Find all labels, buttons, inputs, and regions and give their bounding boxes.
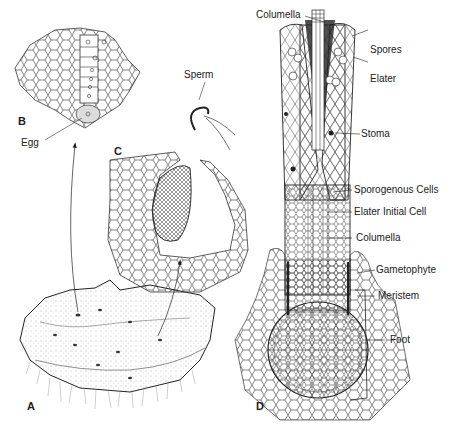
- label-meristem: Meristem: [378, 291, 419, 301]
- label-gametophyte: Gametophyte: [376, 265, 436, 275]
- label-columella: Columella: [356, 233, 400, 243]
- label-sperm: Sperm: [184, 70, 213, 80]
- label-elater-initial-cell: Elater Initial Cell: [354, 207, 426, 217]
- label-stoma: Stoma: [361, 129, 390, 139]
- panel-label-a: A: [27, 401, 35, 412]
- hornwort-figure: B C A D Egg Sperm Columella Spores Elate…: [0, 0, 461, 428]
- label-columella-top: Columella: [256, 10, 300, 20]
- panel-b-drawing: [15, 28, 140, 140]
- label-egg: Egg: [21, 138, 39, 148]
- label-spores: Spores: [370, 45, 402, 55]
- label-foot: Foot: [390, 335, 410, 345]
- panel-c-drawing: [108, 82, 248, 292]
- label-elater: Elater: [370, 74, 396, 84]
- panel-label-d: D: [256, 401, 264, 412]
- panel-label-c: C: [114, 146, 122, 157]
- panel-label-b: B: [18, 116, 26, 127]
- label-sporogenous-cells: Sporogenous Cells: [354, 185, 439, 195]
